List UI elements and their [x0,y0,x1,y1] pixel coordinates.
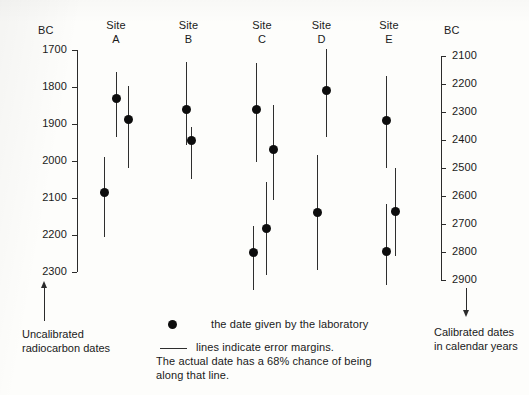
left-axis-line [77,50,78,272]
right-axis-tick [441,56,446,57]
data-point [112,94,121,103]
right-axis-header: BC [444,24,459,37]
site-header-name: Site [165,18,213,32]
site-header-e: SiteE [365,18,413,46]
right-axis-caption-line1: Calibrated dates [434,325,518,339]
left-axis-tick-label: 1800 [33,80,67,93]
error-bar [128,86,129,167]
left-axis-arrow-shaft [44,287,45,321]
right-axis-tick-label: 2300 [452,105,488,118]
site-header-c: SiteC [238,18,286,46]
left-axis-tick-label: 2000 [33,154,67,167]
site-header-b: SiteB [165,18,213,46]
left-axis-caption-line1: Uncalibrated [22,327,110,341]
data-point [249,248,258,257]
error-bar [116,72,117,137]
right-axis-caption-line2: in calendar years [434,339,518,353]
site-header-name: Site [238,18,286,32]
left-axis-tick-label: 1700 [33,43,67,56]
right-axis-tick-label: 2600 [452,189,488,202]
site-header-letter: C [238,32,286,46]
right-axis-tick [441,224,446,225]
error-bar [253,226,254,290]
error-bar [186,62,187,145]
data-point [182,105,191,114]
site-header-name: Site [365,18,413,32]
legend-note-line2: along that line. [156,369,229,382]
legend-line-icon [160,348,187,349]
error-bar [104,157,105,237]
data-point [322,86,331,95]
left-axis-header: BC [38,24,53,37]
right-axis-tick [441,252,446,253]
data-point [100,188,109,197]
right-axis-tick [441,168,446,169]
right-axis-tick [441,112,446,113]
left-axis-arrow-head [41,281,47,288]
error-bar [191,127,192,180]
legend-note-line1: The actual date has a 68% chance of bein… [156,355,372,368]
right-axis-tick [441,196,446,197]
right-axis-tick-label: 2400 [452,133,488,146]
legend-dot-label: the date given by the laboratory [211,318,368,331]
legend-dot-icon [168,320,177,329]
left-axis-tick [72,235,77,236]
right-axis-caption: Calibrated dates in calendar years [434,325,518,353]
left-axis-tick [72,124,77,125]
site-header-name: Site [92,18,140,32]
right-axis-tick-label: 2500 [452,161,488,174]
right-axis-tick [441,84,446,85]
left-axis-tick-label: 1900 [33,117,67,130]
data-point [313,208,322,217]
right-axis-tick-label: 2900 [452,273,488,286]
data-point [262,224,271,233]
left-axis-tick-label: 2200 [33,228,67,241]
data-point [124,115,133,124]
left-axis-tick [72,161,77,162]
right-axis-arrow-head [463,310,469,317]
data-point [382,116,391,125]
site-header-d: SiteD [298,18,346,46]
left-axis-tick-label: 2100 [33,191,67,204]
site-header-a: SiteA [92,18,140,46]
right-axis-tick-label: 2700 [452,217,488,230]
right-axis-tick-label: 2100 [452,49,488,62]
data-point [187,136,196,145]
radiocarbon-calibration-chart: BC 1700180019002000210022002300 Uncalibr… [0,0,529,395]
site-header-letter: B [165,32,213,46]
right-axis-tick [441,140,446,141]
error-bar [386,204,387,285]
left-axis-tick [72,272,77,273]
left-axis-tick-label: 2300 [33,265,67,278]
site-header-letter: D [298,32,346,46]
left-axis-caption: Uncalibrated radiocarbon dates [22,327,110,355]
legend-line-label: lines indicate error margins. [196,341,334,354]
site-header-name: Site [298,18,346,32]
data-point [252,105,261,114]
right-axis-tick [441,280,446,281]
data-point [382,247,391,256]
data-point [391,207,400,216]
data-point [269,145,278,154]
left-axis-caption-line2: radiocarbon dates [22,341,110,355]
left-axis-tick [72,87,77,88]
site-header-letter: A [92,32,140,46]
site-header-letter: E [365,32,413,46]
left-axis-tick [72,50,77,51]
right-axis-tick-label: 2200 [452,77,488,90]
right-axis-tick-label: 2800 [452,245,488,258]
left-axis-tick [72,198,77,199]
